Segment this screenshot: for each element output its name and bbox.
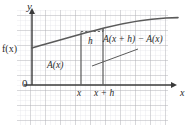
origin-label: 0	[22, 78, 28, 89]
difference-label: A(x + h) − A(x)	[103, 35, 163, 45]
h-gap-label: h	[88, 37, 93, 47]
x-axis-label: x	[180, 88, 184, 98]
grid-background	[17, 10, 168, 125]
x-tick-label: x	[77, 89, 81, 99]
y-axis-label: y	[27, 1, 32, 12]
figure-canvas	[0, 0, 191, 137]
area-a-of-x-label: A(x)	[47, 61, 63, 71]
x-plus-h-tick-label: x + h	[94, 89, 114, 99]
f-of-x-label: f(x)	[2, 44, 17, 54]
area-function-figure: y f(x) 0 A(x) h A(x + h) − A(x) x x + h …	[0, 0, 191, 137]
